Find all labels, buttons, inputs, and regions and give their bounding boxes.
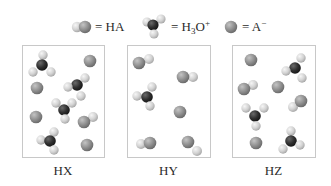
legend-item-h3o: = H3O+ [142, 14, 210, 38]
legend-item-anion: = A− [225, 18, 267, 34]
anion-icon [250, 137, 263, 150]
anion-icon [272, 81, 285, 94]
solution-boxes: HXHYHZ [23, 46, 316, 179]
box-label-hz: HZ [265, 163, 282, 178]
legend-label-ha: = HA [95, 19, 125, 34]
acid-strength-diagram: = HA = H3O+ = A− HXHYHZ [0, 0, 331, 186]
legend: = HA = H3O+ = A− [72, 14, 267, 38]
ha-molecule-icon [72, 21, 91, 33]
box-label-hy: HY [159, 163, 178, 178]
solution-box-hx: HX [23, 46, 105, 179]
anion-icon [30, 111, 43, 124]
solution-box-hz: HZ [233, 46, 316, 179]
legend-label-anion: = A− [242, 18, 266, 34]
solution-box-hy: HY [128, 46, 211, 179]
legend-item-ha: = HA [72, 19, 125, 34]
anion-icon [31, 82, 44, 95]
h3o-molecule-icon [142, 14, 165, 38]
anion-icon [84, 55, 97, 68]
anion-icon [174, 106, 187, 119]
anion-icon [81, 139, 94, 152]
anion-icon [225, 21, 237, 33]
anion-icon [245, 54, 258, 67]
ha-molecule-icon [177, 71, 198, 84]
legend-label-h3o: = H3O+ [171, 18, 210, 36]
box-label-hx: HX [54, 163, 73, 178]
